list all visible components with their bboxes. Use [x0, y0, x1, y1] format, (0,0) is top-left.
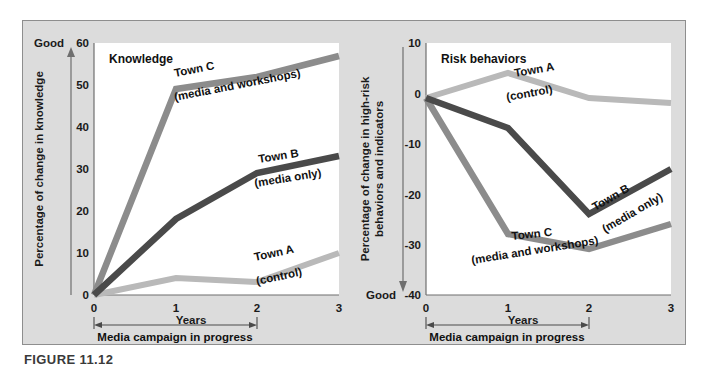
knowledge-y-axis-title: Percentage of change in knowledge: [33, 71, 45, 267]
risk-y-axis-title-line1: Percentage of change in high-risk: [359, 76, 371, 261]
risk-xtick-1: 1: [505, 302, 512, 314]
knowledge-campaign-label: Media campaign in progress: [97, 331, 252, 343]
risk-ytick-m30: -30: [404, 239, 421, 251]
knowledge-xtick-3: 3: [336, 302, 342, 314]
knowledge-ytick-20: 20: [76, 205, 89, 217]
figure-panel: Percentage of change in knowledge Good 6…: [22, 20, 686, 345]
knowledge-chart-title: Knowledge: [109, 52, 173, 66]
chart-risk-behaviors: Percentage of change in high-risk behavi…: [355, 21, 687, 346]
chart-knowledge: Percentage of change in knowledge Good 6…: [23, 21, 355, 346]
risk-x-axis-title: Years: [508, 314, 539, 326]
knowledge-ytick-60: 60: [76, 37, 89, 49]
knowledge-ytick-10: 10: [76, 247, 89, 259]
risk-ytick-0: 0: [415, 88, 421, 100]
risk-ytick-10: 10: [408, 37, 421, 49]
knowledge-ytick-30: 30: [76, 163, 89, 175]
knowledge-ytick-50: 50: [76, 79, 89, 91]
risk-y-axis-title-line2: behaviors and indicators: [373, 101, 385, 237]
risk-ytick-m20: -20: [404, 189, 421, 201]
knowledge-xtick-2: 2: [254, 302, 260, 314]
knowledge-direction-arrow-head: [67, 47, 75, 57]
risk-xtick-2: 2: [586, 302, 592, 314]
risk-campaign-label: Media campaign in progress: [429, 331, 584, 343]
knowledge-ytick-40: 40: [76, 121, 89, 133]
knowledge-ytick-0: 0: [83, 289, 89, 301]
knowledge-good-label: Good: [34, 37, 64, 49]
risk-xtick-3: 3: [668, 302, 674, 314]
risk-good-label: Good: [366, 289, 396, 301]
risk-chart-title: Risk behaviors: [441, 52, 527, 66]
risk-xtick-0: 0: [423, 302, 429, 314]
risk-svg: Percentage of change in high-risk behavi…: [355, 21, 687, 346]
knowledge-xtick-1: 1: [173, 302, 180, 314]
knowledge-svg: Percentage of change in knowledge Good 6…: [23, 21, 355, 346]
risk-ytick-m10: -10: [404, 138, 421, 150]
knowledge-xtick-0: 0: [91, 302, 97, 314]
figure-caption: FIGURE 11.12: [24, 352, 113, 372]
risk-ytick-m40: -40: [404, 289, 421, 301]
knowledge-x-axis-title: Years: [176, 314, 207, 326]
